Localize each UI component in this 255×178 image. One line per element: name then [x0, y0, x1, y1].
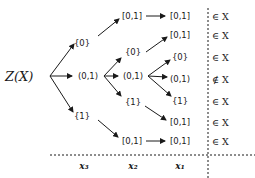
- root-node: Z(X): [5, 69, 33, 84]
- membership-6: ∈ X: [212, 136, 229, 147]
- axis-label-x3: x₃: [79, 161, 88, 171]
- edge-root-a0: [50, 44, 74, 76]
- node-l1-0: [0,1]: [170, 11, 190, 21]
- edge-a1-b3: [104, 76, 121, 96]
- node-l1-6: [0,1]: [170, 136, 190, 146]
- membership-2: ∈ X: [212, 52, 229, 63]
- edge-a0-b0: [98, 19, 119, 36]
- edge-b2-c4: [148, 76, 171, 96]
- membership-4: ∈ X: [212, 96, 229, 107]
- membership-1: ∈ X: [212, 30, 229, 41]
- node-l1-5: [0,1]: [170, 117, 190, 127]
- membership-3: ∉ X: [212, 74, 229, 85]
- edge-b3-c5: [145, 106, 166, 120]
- edge-b1-c1: [146, 37, 167, 52]
- node-l2-2: (0,1): [123, 71, 143, 81]
- node-l2-3: {1}: [125, 97, 141, 107]
- edge-b2-c3: [148, 76, 167, 77]
- edge-a1-b1: [104, 58, 121, 76]
- node-l1-1: [0,1]: [170, 30, 190, 40]
- node-l1-2: {0}: [172, 52, 188, 62]
- tree-edges: [0, 0, 255, 178]
- membership-0: ∈ X: [212, 11, 229, 22]
- node-l2-0: [0,1]: [122, 11, 142, 21]
- edge-a2-b4: [98, 120, 118, 137]
- edge-root-a2: [50, 76, 73, 112]
- node-l3-0: {0}: [74, 38, 90, 48]
- node-l3-1: (0,1): [78, 71, 98, 81]
- node-l1-4: {1}: [172, 96, 188, 106]
- axis-label-x1: x₁: [175, 161, 184, 171]
- membership-5: ∈ X: [212, 117, 229, 128]
- edge-b2-c2: [148, 60, 170, 76]
- node-l2-4: [0,1]: [122, 136, 142, 146]
- node-l3-2: {1}: [74, 111, 90, 121]
- node-l2-1: {0}: [125, 47, 141, 57]
- node-l1-3: (0,1): [170, 74, 190, 84]
- axis-label-x2: x₂: [128, 161, 137, 171]
